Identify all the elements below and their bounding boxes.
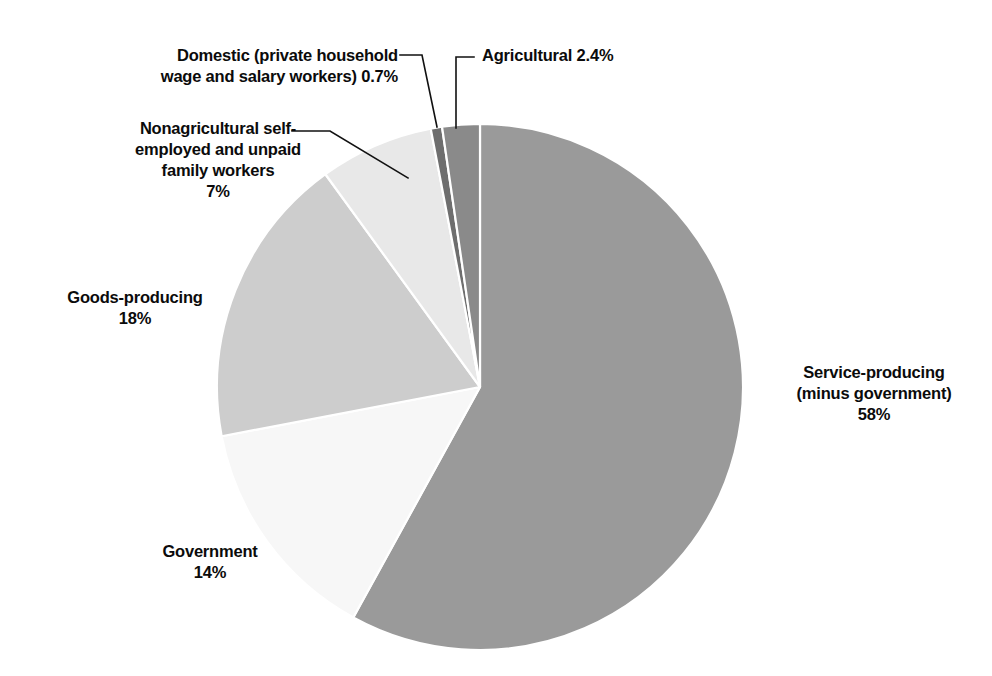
slice-label-government: Government 14% <box>95 541 325 583</box>
leader-line-domestic <box>400 55 437 127</box>
slice-label-agricultural: Agricultural 2.4% <box>482 45 782 66</box>
slice-label-goods-producing: Goods-producing 18% <box>10 287 260 329</box>
slice-label-nonagricultural-self-employed: Nonagricultural self- employed and unpai… <box>68 118 368 202</box>
chart-page: Domestic (private household wage and sal… <box>0 0 992 676</box>
leader-line-agricultural <box>456 57 474 128</box>
slice-label-service-producing: Service-producing (minus government) 58% <box>760 362 988 425</box>
slice-label-domestic: Domestic (private household wage and sal… <box>78 45 398 87</box>
